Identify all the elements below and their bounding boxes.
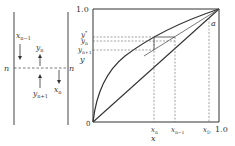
operating-line xyxy=(144,9,219,56)
y-top-label: 1.0 xyxy=(76,5,89,14)
stream-y-n+1-label: yn+1 xyxy=(32,89,48,99)
x-right-label: 1.0 xyxy=(215,125,228,134)
y-axis-label: y xyxy=(79,55,85,64)
arrowhead-down-icon xyxy=(18,56,22,60)
origin-label: 0 xyxy=(86,120,90,128)
x-n-1-label: xn−1 xyxy=(171,126,185,135)
arrowhead-up-icon xyxy=(38,54,42,58)
y-n+1-label: yn+1 xyxy=(77,46,92,55)
column-section: n n xn−1 yn yn+1 xn xyxy=(4,12,74,125)
plate-label-right: n xyxy=(69,64,74,73)
point-a-label: a xyxy=(211,19,216,28)
diagonal-line xyxy=(93,9,219,122)
plate-label-left: n xyxy=(4,64,9,73)
stream-y-n-label: yn xyxy=(35,43,44,53)
arrowhead-up-icon xyxy=(38,74,42,78)
stream-x-n-1-label: xn−1 xyxy=(16,31,31,41)
diagram-canvas: n n xn−1 yn yn+1 xn xyxy=(0,0,235,146)
arrowhead-down-icon xyxy=(57,80,61,84)
x-axis-label: x xyxy=(151,134,156,143)
y-n-label: yn xyxy=(80,37,88,46)
x-D-label: xD xyxy=(203,126,211,135)
stream-x-n-label: xn xyxy=(54,85,62,95)
xy-chart: a 1.0 0 y* yn yn+1 y xn xn−1 xD 1.0 x xyxy=(76,5,228,143)
